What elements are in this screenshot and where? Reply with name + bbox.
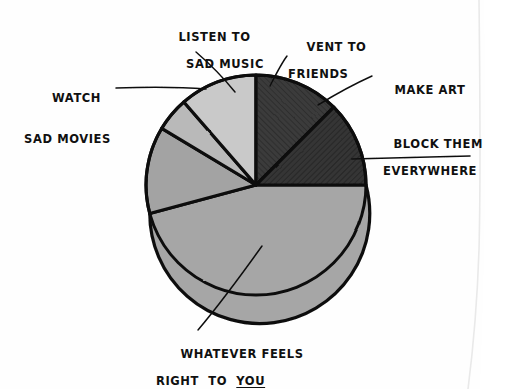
label-vent-line1: VENT TO — [306, 40, 366, 54]
label-vent-line2: FRIENDS — [288, 68, 366, 82]
label-watch-line1: WATCH — [52, 92, 111, 106]
label-make-art: MAKE ART — [376, 70, 465, 111]
label-block-line1: BLOCK THEM — [393, 137, 483, 151]
label-listen-line1: LISTEN TO — [178, 30, 250, 44]
label-make-art-line1: MAKE ART — [394, 83, 465, 97]
label-whatever-feels-right-to-you: WHATEVER FEELS RIGHT TO YOU — [162, 334, 304, 389]
label-listen-to-sad-music: LISTEN TO SAD MUSIC — [160, 17, 264, 98]
label-vent-to-friends: VENT TO FRIENDS — [288, 27, 366, 108]
label-whatever-line2: RIGHT TO YOU — [156, 375, 304, 389]
label-whatever-you-emphasis: YOU — [236, 374, 265, 388]
label-block-line2: EVERYWHERE — [383, 165, 483, 179]
label-whatever-line1: WHATEVER FEELS — [180, 347, 303, 361]
label-block-them-everywhere: BLOCK THEM EVERYWHERE — [375, 124, 483, 205]
label-watch-sad-movies: WATCH SAD MOVIES — [24, 65, 111, 173]
label-whatever-line2-prefix: RIGHT TO — [156, 374, 236, 388]
label-listen-line2: SAD MUSIC — [186, 58, 264, 72]
label-watch-line2: SAD MOVIES — [24, 133, 111, 147]
paper-edge-shadow — [480, 0, 506, 389]
paper-sheet: LISTEN TO SAD MUSIC VENT TO FRIENDS WATC… — [0, 0, 506, 389]
